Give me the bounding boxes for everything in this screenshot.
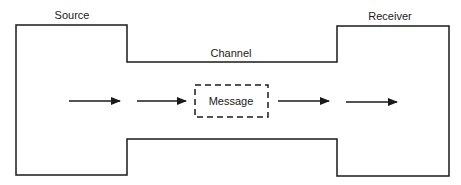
message-label: Message [209,95,254,107]
receiver-label: Receiver [368,10,411,22]
source-label: Source [55,9,90,21]
communication-diagram [0,0,461,185]
channel-label: Channel [211,47,252,59]
